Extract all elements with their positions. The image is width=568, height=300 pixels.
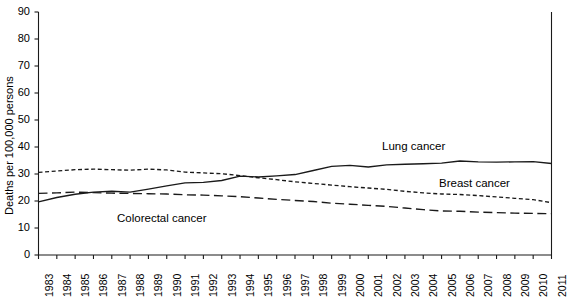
cancer-mortality-line-chart: Deaths per 100,000 persons 0102030405060… (0, 0, 561, 300)
plot-area (0, 0, 561, 300)
